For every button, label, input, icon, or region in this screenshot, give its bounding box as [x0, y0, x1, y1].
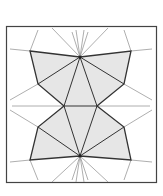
bottom-apex-dot — [79, 155, 82, 158]
origami-crease-diagram — [0, 0, 163, 196]
top-apex-dot — [79, 56, 82, 59]
